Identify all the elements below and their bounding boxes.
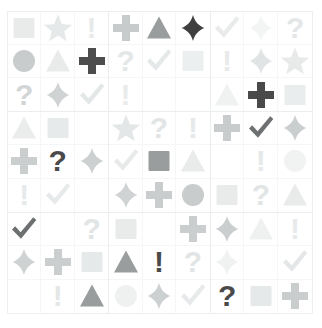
- grid-cell[interactable]: [278, 246, 312, 279]
- grid-cell[interactable]: [143, 78, 176, 111]
- grid-cell[interactable]: [244, 213, 278, 246]
- square-icon: [9, 13, 39, 43]
- grid-cell[interactable]: [41, 45, 74, 78]
- grid-cell[interactable]: [143, 280, 176, 313]
- grid-cell[interactable]: [278, 112, 312, 145]
- cross-icon: [280, 281, 310, 311]
- grid-cell[interactable]: [109, 145, 142, 178]
- grid-cell[interactable]: [75, 246, 108, 279]
- grid-cell[interactable]: [75, 45, 108, 78]
- check-icon: [144, 46, 174, 76]
- grid-cell[interactable]: [109, 179, 142, 212]
- grid-cell[interactable]: ?: [8, 78, 41, 111]
- grid-cell[interactable]: !: [109, 78, 142, 111]
- grid-cell[interactable]: !: [211, 45, 245, 78]
- grid-cell[interactable]: [109, 280, 142, 313]
- grid-cell[interactable]: [211, 213, 245, 246]
- grid-cell[interactable]: [244, 112, 278, 145]
- grid-cell[interactable]: [109, 112, 142, 145]
- grid-cell[interactable]: [278, 145, 312, 178]
- grid-cell[interactable]: [244, 45, 278, 78]
- grid-cell[interactable]: [143, 145, 176, 178]
- grid-cell[interactable]: [75, 112, 108, 145]
- grid-cell[interactable]: !: [8, 179, 41, 212]
- grid-cell[interactable]: ?: [244, 179, 278, 212]
- grid-cell[interactable]: [8, 246, 41, 279]
- grid-cell[interactable]: [244, 246, 278, 279]
- grid-cell[interactable]: ?: [109, 45, 142, 78]
- triangle-icon: [246, 214, 276, 244]
- grid-cell[interactable]: !: [143, 246, 176, 279]
- grid-cell[interactable]: [211, 112, 245, 145]
- cross-icon: [144, 180, 174, 210]
- blank-cell: [178, 80, 208, 110]
- blank-cell: [212, 146, 242, 176]
- grid-cell[interactable]: [143, 45, 176, 78]
- grid-cell[interactable]: !: [278, 213, 312, 246]
- grid-cell[interactable]: [176, 145, 209, 178]
- grid-cell[interactable]: [8, 213, 41, 246]
- grid-cell[interactable]: [244, 12, 278, 45]
- check-icon: [9, 214, 39, 244]
- grid-cell[interactable]: [8, 45, 41, 78]
- grid-cell[interactable]: !: [75, 12, 108, 45]
- grid-cell[interactable]: !: [244, 145, 278, 178]
- grid-cell[interactable]: [41, 78, 74, 111]
- grid-cell[interactable]: ?: [211, 280, 245, 313]
- grid-cell[interactable]: [278, 78, 312, 111]
- grid-cell[interactable]: ?: [278, 12, 312, 45]
- grid-cell[interactable]: [143, 12, 176, 45]
- question-icon: ?: [178, 247, 208, 277]
- grid-cell[interactable]: [176, 78, 209, 111]
- grid-cell[interactable]: [211, 145, 245, 178]
- grid-cell[interactable]: [176, 45, 209, 78]
- grid-cell[interactable]: [75, 145, 108, 178]
- grid-cell[interactable]: [211, 246, 245, 279]
- exclamation-icon: !: [212, 46, 242, 76]
- grid-cell[interactable]: [8, 280, 41, 313]
- triangle-icon: [77, 281, 107, 311]
- grid-cell[interactable]: [8, 12, 41, 45]
- grid-cell[interactable]: [176, 280, 209, 313]
- check-icon: [77, 80, 107, 110]
- grid-cell[interactable]: [109, 213, 142, 246]
- grid-cell[interactable]: [8, 145, 41, 178]
- grid-cell[interactable]: [109, 12, 142, 45]
- grid-cell[interactable]: ?: [75, 213, 108, 246]
- grid-cell[interactable]: !: [41, 280, 74, 313]
- grid-cell[interactable]: [75, 179, 108, 212]
- grid-cell[interactable]: [278, 45, 312, 78]
- diamond-icon: [246, 46, 276, 76]
- grid-cell[interactable]: [41, 112, 74, 145]
- grid-cell[interactable]: [176, 12, 209, 45]
- cross-icon: [43, 247, 73, 277]
- grid-cell[interactable]: [41, 213, 74, 246]
- grid-cell[interactable]: [8, 112, 41, 145]
- grid-cell[interactable]: ?: [176, 246, 209, 279]
- grid-cell[interactable]: [278, 179, 312, 212]
- square-icon: [280, 80, 310, 110]
- grid-cell[interactable]: [75, 78, 108, 111]
- square-icon: [77, 247, 107, 277]
- grid-cell[interactable]: [244, 78, 278, 111]
- grid-cell[interactable]: [41, 179, 74, 212]
- grid-cell[interactable]: [211, 78, 245, 111]
- grid-cell[interactable]: [176, 179, 209, 212]
- grid-cell[interactable]: [109, 246, 142, 279]
- grid-cell[interactable]: ?: [143, 112, 176, 145]
- grid-cell[interactable]: ?: [41, 145, 74, 178]
- grid-cell[interactable]: [244, 280, 278, 313]
- grid-cell[interactable]: [278, 280, 312, 313]
- cross-icon: [111, 13, 141, 43]
- grid-cell[interactable]: [41, 246, 74, 279]
- grid-cell[interactable]: [211, 179, 245, 212]
- symbol-grid: !??!?!?!?!!??!!?!?: [7, 11, 313, 314]
- grid-cell[interactable]: !: [176, 112, 209, 145]
- grid-cell[interactable]: [41, 12, 74, 45]
- grid-cell[interactable]: [143, 179, 176, 212]
- grid-cell[interactable]: [211, 12, 245, 45]
- grid-cell[interactable]: [176, 213, 209, 246]
- circle-icon: [111, 281, 141, 311]
- grid-cell[interactable]: [75, 280, 108, 313]
- grid-cell[interactable]: [143, 213, 176, 246]
